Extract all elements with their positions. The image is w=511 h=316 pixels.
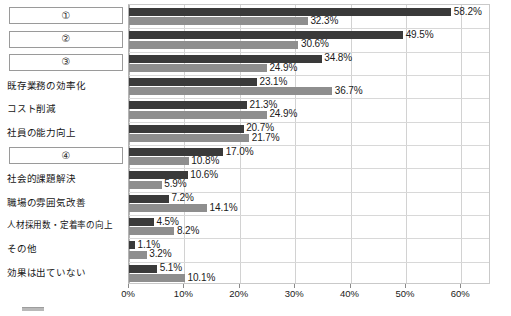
category-label-redacted: ③: [9, 54, 123, 71]
bar: [129, 87, 332, 95]
x-axis-tick-label: 30%: [285, 289, 304, 299]
bar: [129, 101, 247, 109]
gridline-50: [406, 5, 407, 283]
bar-value-label: 10.1%: [187, 273, 215, 283]
row-separator: [129, 122, 489, 123]
bar-value-label: 24.9%: [269, 63, 297, 73]
category-label-text: 社員の能力向上: [4, 128, 76, 138]
bar: [129, 31, 403, 39]
x-axis: 0%10%20%30%40%50%60%: [128, 284, 490, 308]
bar-value-label: 36.7%: [335, 86, 363, 96]
bar-value-label: 21.7%: [252, 133, 280, 143]
bar: [129, 41, 298, 49]
x-axis-tick-label: 0%: [121, 289, 135, 299]
bar-value-label: 14.1%: [210, 203, 238, 213]
bar-value-label: 49.5%: [406, 30, 434, 40]
bar: [129, 181, 162, 189]
category-label-column: ①②③既存業務の効率化コスト削減社員の能力向上④社会的課題解決職場の雰囲気改善人…: [4, 4, 128, 284]
gridline-40: [351, 5, 352, 283]
category-label-redacted: ④: [9, 147, 123, 164]
row-separator: [129, 168, 489, 169]
bar: [129, 195, 169, 203]
bar: [129, 17, 308, 25]
category-label-text: コスト削減: [4, 104, 56, 114]
bar: [129, 125, 244, 133]
category-label-text: 既存業務の効率化: [4, 81, 85, 91]
gridline-60: [461, 5, 462, 283]
bar-value-label: 5.1%: [160, 263, 182, 273]
bar: [129, 111, 267, 119]
category-label-text: その他: [4, 244, 36, 254]
x-axis-tick-label: 60%: [451, 289, 470, 299]
circled-number-icon: ②: [62, 34, 71, 44]
category-label: コスト削減: [4, 102, 128, 116]
bar: [129, 78, 257, 86]
bar: [129, 227, 174, 235]
category-label-text: 人材採用数・定着率の向上: [4, 221, 113, 230]
bar: [129, 157, 189, 165]
bar-value-label: 4.5%: [156, 217, 178, 227]
bar-value-label: 58.2%: [454, 7, 482, 17]
category-label: 社会的課題解決: [4, 172, 128, 186]
row-separator: [129, 52, 489, 53]
category-label: 人材採用数・定着率の向上: [4, 219, 128, 233]
x-axis-tick-label: 10%: [174, 289, 193, 299]
category-label-text: 職場の雰囲気改善: [4, 198, 85, 208]
category-label-redacted: ①: [9, 7, 123, 24]
category-label: その他: [4, 242, 128, 256]
row-separator: [129, 98, 489, 99]
circled-number-icon: ①: [62, 11, 71, 21]
row-separator: [129, 28, 489, 29]
row-separator: [129, 262, 489, 263]
bar-value-label: 7.2%: [171, 193, 193, 203]
bar-value-label: 8.2%: [177, 226, 199, 236]
bar: [129, 274, 185, 282]
bar: [129, 241, 135, 249]
row-separator: [129, 145, 489, 146]
bar-value-label: 17.0%: [226, 147, 254, 157]
bar-value-label: 10.6%: [190, 170, 218, 180]
row-separator: [129, 238, 489, 239]
bar-value-label: 3.2%: [149, 249, 171, 259]
bar: [129, 251, 147, 259]
bar-value-label: 30.6%: [301, 39, 329, 49]
category-label: 効果は出ていない: [4, 265, 128, 279]
bar-value-label: 5.9%: [164, 179, 186, 189]
circled-number-icon: ③: [62, 57, 71, 67]
legend-swatch-cropped: [22, 307, 44, 311]
category-label-redacted: ②: [9, 31, 123, 48]
x-axis-tick-label: 20%: [229, 289, 248, 299]
category-label: 社員の能力向上: [4, 125, 128, 139]
bar-value-label: 10.8%: [191, 156, 219, 166]
bar: [129, 265, 157, 273]
circled-number-icon: ④: [62, 151, 71, 161]
category-label: 職場の雰囲気改善: [4, 195, 128, 209]
bar: [129, 204, 207, 212]
bar-value-label: 24.9%: [269, 109, 297, 119]
category-label: 既存業務の効率化: [4, 79, 128, 93]
bar-value-label: 23.1%: [259, 77, 287, 87]
category-label-text: 社会的課題解決: [4, 174, 76, 184]
bar-value-label: 34.8%: [324, 53, 352, 63]
plot-area: 58.2%49.5%34.8%23.1%21.3%20.7%17.0%10.6%…: [128, 4, 490, 284]
category-label-text: 効果は出ていない: [4, 268, 85, 278]
bar-value-label: 32.3%: [310, 16, 338, 26]
row-separator: [129, 215, 489, 216]
bar: [129, 64, 267, 72]
bar: [129, 8, 451, 16]
x-axis-tick-label: 50%: [395, 289, 414, 299]
x-axis-tick-label: 40%: [340, 289, 359, 299]
bar: [129, 134, 249, 142]
bar: [129, 218, 154, 226]
row-separator: [129, 75, 489, 76]
horizontal-bar-chart: 58.2%49.5%34.8%23.1%21.3%20.7%17.0%10.6%…: [0, 0, 511, 316]
